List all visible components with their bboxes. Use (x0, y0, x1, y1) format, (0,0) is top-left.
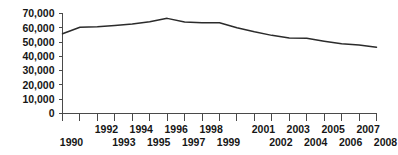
x-tick-label: 2007 (356, 123, 380, 135)
x-tick-label: 2003 (287, 123, 311, 135)
x-tick-label: 1996 (164, 123, 188, 135)
x-tick-label: 2002 (269, 136, 293, 148)
plot-area: 010,00020,00030,00040,00050,00060,00070,… (22, 7, 397, 147)
x-tick-label: 1992 (95, 123, 119, 135)
x-tick-label: 2001 (252, 123, 276, 135)
x-tick-label: 1994 (130, 123, 154, 135)
x-tick-label: 1995 (147, 136, 171, 148)
y-axis-tick-marks (59, 14, 63, 114)
y-tick-label: 0 (49, 107, 55, 119)
y-tick-label: 70,000 (22, 7, 54, 19)
x-tick-label: 2005 (321, 123, 345, 135)
line-chart: 010,00020,00030,00040,00050,00060,00070,… (0, 0, 398, 155)
y-tick-label: 20,000 (22, 79, 54, 91)
x-tick-label: 2006 (339, 136, 363, 148)
x-tick-label: 1997 (182, 136, 206, 148)
x-axis-tick-labels-lower: 199019931995199719992002200420062008 (60, 136, 398, 148)
x-tick-label: 1999 (217, 136, 241, 148)
x-tick-label: 1993 (112, 136, 136, 148)
x-tick-label: 1998 (199, 123, 223, 135)
y-tick-label: 10,000 (22, 93, 54, 105)
x-axis-tick-labels-upper: 19921994199619982001200320052007 (95, 123, 380, 135)
x-tick-label: 1990 (60, 136, 84, 148)
y-tick-label: 60,000 (22, 22, 54, 34)
y-tick-label: 30,000 (22, 64, 54, 76)
x-tick-label: 2004 (304, 136, 328, 148)
x-tick-label: 2008 (374, 136, 398, 148)
y-tick-label: 40,000 (22, 50, 54, 62)
chart-figure: 010,00020,00030,00040,00050,00060,00070,… (0, 0, 398, 155)
chart-axes (63, 14, 377, 114)
y-axis-tick-labels: 010,00020,00030,00040,00050,00060,00070,… (22, 7, 54, 119)
data-series-line (63, 18, 377, 47)
x-axis-tick-marks (63, 114, 377, 121)
y-tick-label: 50,000 (22, 36, 54, 48)
